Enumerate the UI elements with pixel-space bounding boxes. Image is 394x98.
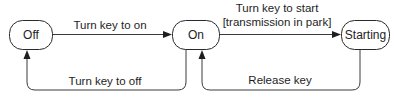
arrowhead-icon xyxy=(199,50,206,59)
transition-label: Turn key to on xyxy=(73,19,146,31)
arrowhead-icon xyxy=(332,31,341,38)
transition-label-line2: [transmission in park] xyxy=(223,16,332,28)
state-label: Off xyxy=(23,28,39,42)
transition-off-to-on: Turn key to on xyxy=(53,19,172,38)
transition-label: Release key xyxy=(248,74,312,86)
transition-label-line1: Turn key to start xyxy=(236,2,319,14)
transition-starting-to-on: Release key xyxy=(199,49,361,90)
state-on: On xyxy=(173,21,220,50)
transition-on-to-starting: Turn key to start [transmission in park] xyxy=(220,2,341,38)
transition-label: Turn key to off xyxy=(69,75,143,87)
arrowhead-icon xyxy=(163,31,172,38)
state-label: Starting xyxy=(345,28,386,42)
arrowhead-icon xyxy=(24,50,31,59)
state-diagram: Turn key to on Turn key to start [transm… xyxy=(0,0,394,98)
state-off: Off xyxy=(10,21,53,50)
state-label: On xyxy=(188,28,204,42)
transition-on-to-off: Turn key to off xyxy=(24,49,187,90)
state-starting: Starting xyxy=(342,21,390,50)
